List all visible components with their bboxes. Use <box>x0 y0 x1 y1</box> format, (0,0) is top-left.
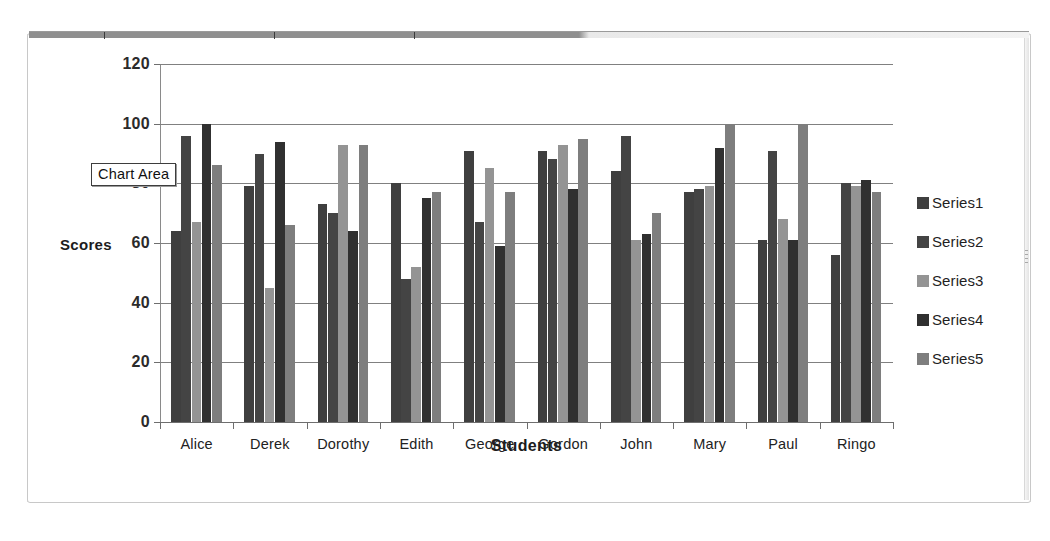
x-axis-category-label: Alice <box>160 436 233 452</box>
bar[interactable] <box>548 159 558 422</box>
legend-item-label: Series2 <box>932 233 984 250</box>
bar[interactable] <box>464 151 474 422</box>
legend-swatch-icon <box>917 353 929 365</box>
x-axis-tick <box>453 422 454 429</box>
bar[interactable] <box>485 168 495 422</box>
y-axis-tick-label: 40 <box>106 294 150 312</box>
bar[interactable] <box>285 225 295 422</box>
x-axis-category-label: John <box>600 436 673 452</box>
x-axis-category-label: Ringo <box>820 436 893 452</box>
bar[interactable] <box>831 255 841 422</box>
bar-group[interactable] <box>307 64 380 422</box>
legend-swatch-icon <box>917 197 929 209</box>
bar[interactable] <box>192 222 202 422</box>
bottom-cropped-caption <box>30 524 930 540</box>
bar[interactable] <box>495 246 505 422</box>
bar[interactable] <box>328 213 338 422</box>
x-axis-tick <box>527 422 528 429</box>
bar[interactable] <box>244 186 254 422</box>
bar[interactable] <box>538 151 548 422</box>
y-axis-tick-label: 120 <box>106 55 150 73</box>
bar[interactable] <box>705 186 715 422</box>
bar[interactable] <box>275 142 285 422</box>
bar[interactable] <box>652 213 662 422</box>
legend-item-series4[interactable]: Series4 <box>917 300 1027 339</box>
y-axis-title: Scores <box>60 236 112 253</box>
legend-item-series3[interactable]: Series3 <box>917 261 1027 300</box>
bar[interactable] <box>768 151 778 422</box>
chart-legend[interactable]: Series1Series2Series3Series4Series5 <box>917 183 1027 378</box>
bar[interactable] <box>642 234 652 422</box>
y-axis-tick-label: 60 <box>106 234 150 252</box>
legend-swatch-icon <box>917 236 929 248</box>
bar[interactable] <box>348 231 358 422</box>
bar[interactable] <box>255 154 265 423</box>
legend-item-label: Series1 <box>932 194 984 211</box>
bar[interactable] <box>422 198 432 422</box>
bar[interactable] <box>778 219 788 422</box>
legend-item-series5[interactable]: Series5 <box>917 339 1027 378</box>
bar[interactable] <box>202 124 212 422</box>
bar[interactable] <box>861 180 871 422</box>
bar-group[interactable] <box>233 64 306 422</box>
legend-swatch-icon <box>917 314 929 326</box>
y-axis-tick-label: 20 <box>106 353 150 371</box>
bar[interactable] <box>621 136 631 422</box>
bar[interactable] <box>432 192 442 422</box>
bar[interactable] <box>401 279 411 422</box>
bar[interactable] <box>578 139 588 422</box>
bar[interactable] <box>318 204 328 422</box>
legend-item-label: Series3 <box>932 272 984 289</box>
x-axis-tick <box>893 422 894 429</box>
bar[interactable] <box>798 124 808 422</box>
bar[interactable] <box>568 189 578 422</box>
plot-area[interactable]: AliceDerekDorothyEdithGeorgeGordonJohnMa… <box>160 64 893 422</box>
bar[interactable] <box>265 288 275 422</box>
bar-group[interactable] <box>600 64 673 422</box>
bar[interactable] <box>611 171 621 422</box>
legend-item-series2[interactable]: Series2 <box>917 222 1027 261</box>
bar[interactable] <box>631 240 641 422</box>
bar[interactable] <box>725 124 735 422</box>
bar-group[interactable] <box>820 64 893 422</box>
bar[interactable] <box>788 240 798 422</box>
x-axis-tick <box>746 422 747 429</box>
bar[interactable] <box>715 148 725 422</box>
bar[interactable] <box>411 267 421 422</box>
bar[interactable] <box>851 186 861 422</box>
bar-group[interactable] <box>453 64 526 422</box>
bar[interactable] <box>758 240 768 422</box>
x-axis-tick <box>233 422 234 429</box>
bar[interactable] <box>841 183 851 422</box>
x-axis-category-label: Derek <box>233 436 306 452</box>
bar[interactable] <box>558 145 568 422</box>
bar-group[interactable] <box>673 64 746 422</box>
bar[interactable] <box>505 192 515 422</box>
bar-chart[interactable]: Scores Students AliceDerekDorothyEdithGe… <box>27 33 1031 503</box>
legend-item-label: Series5 <box>932 350 984 367</box>
x-axis-tick <box>307 422 308 429</box>
x-axis-category-label: Paul <box>746 436 819 452</box>
top-cropped-caption <box>150 0 850 5</box>
bar[interactable] <box>391 183 401 422</box>
bar[interactable] <box>475 222 485 422</box>
bar-group[interactable] <box>380 64 453 422</box>
x-axis-tick <box>160 422 161 429</box>
legend-item-series1[interactable]: Series1 <box>917 183 1027 222</box>
bar[interactable] <box>684 192 694 422</box>
x-axis-category-label: Edith <box>380 436 453 452</box>
bar[interactable] <box>872 192 882 422</box>
bar-group[interactable] <box>160 64 233 422</box>
bar[interactable] <box>171 231 181 422</box>
bar[interactable] <box>694 189 704 422</box>
legend-swatch-icon <box>917 275 929 287</box>
bar-group[interactable] <box>527 64 600 422</box>
bar-group[interactable] <box>746 64 819 422</box>
x-axis-tick <box>600 422 601 429</box>
bar[interactable] <box>181 136 191 422</box>
bar[interactable] <box>359 145 369 422</box>
bar[interactable] <box>338 145 348 422</box>
legend-item-label: Series4 <box>932 311 984 328</box>
y-axis-tick-label: 100 <box>106 115 150 133</box>
bar[interactable] <box>212 165 222 422</box>
